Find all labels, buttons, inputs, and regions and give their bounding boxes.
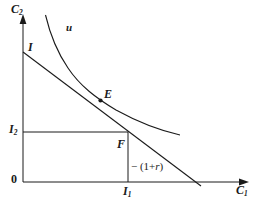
budget-slope-label: − (1+r) — [131, 161, 163, 172]
income-y-label-sub: 2 — [14, 128, 18, 137]
income-x-label-base: I — [123, 184, 128, 198]
income-y-label: I2 — [9, 123, 17, 135]
consumption-smoothing-diagram: C2 C1 0 I u E F I2 I1 − (1+r) — [0, 0, 261, 206]
budget-slope-suffix: ) — [160, 160, 164, 172]
x-axis-label-base: C — [236, 183, 244, 197]
diagram-canvas — [0, 0, 261, 206]
x-axis-label: C1 — [236, 184, 248, 196]
income-y-label-base: I — [9, 122, 14, 136]
indifference-curve-label: u — [66, 22, 72, 33]
origin-label: 0 — [11, 173, 17, 185]
tangency-point-marker — [98, 98, 102, 102]
equilibrium-point-label: E — [104, 88, 112, 100]
income-x-label-sub: 1 — [128, 190, 132, 199]
indifference-curve — [46, 15, 181, 135]
corner-point-label: F — [117, 138, 125, 150]
budget-intercept-label: I — [28, 41, 33, 53]
x-axis-label-sub: 1 — [244, 189, 248, 198]
budget-line — [23, 52, 201, 186]
y-axis-label-base: C — [11, 2, 19, 16]
budget-slope-prefix: − (1+ — [131, 160, 155, 172]
income-x-label: I1 — [123, 185, 131, 197]
y-axis-label: C2 — [11, 3, 23, 15]
y-axis-label-sub: 2 — [19, 8, 23, 17]
